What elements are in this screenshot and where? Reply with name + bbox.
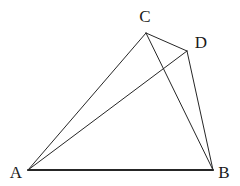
vertex-label-B: B [218, 164, 229, 181]
vertex-label-D: D [195, 34, 207, 51]
vertex-label-C: C [139, 8, 150, 25]
vertex-label-A: A [10, 164, 22, 181]
geometry-figure: A B C D [0, 0, 240, 186]
figure-canvas [0, 0, 240, 186]
segment-AC [28, 33, 146, 170]
segment-CB [146, 33, 213, 170]
segment-CD [146, 33, 187, 51]
segments-group [28, 33, 213, 170]
segment-DB [187, 51, 213, 170]
